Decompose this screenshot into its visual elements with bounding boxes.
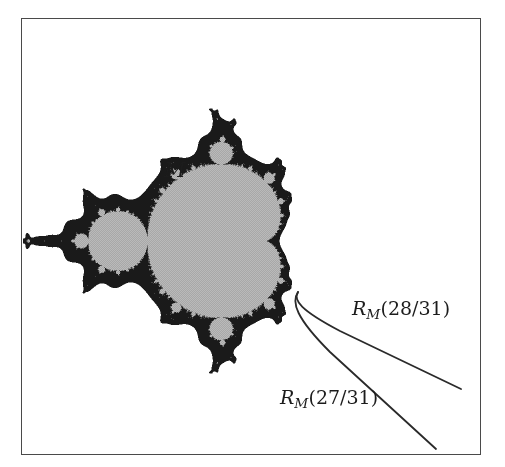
ray-label-upper: RM(28/31) [352, 299, 450, 322]
ray-lower-subscript: M [294, 395, 308, 411]
set-label-M: M [164, 160, 186, 181]
ray-lower-symbol: R [280, 386, 294, 408]
ray-upper-subscript: M [366, 306, 380, 322]
ray-upper-symbol: R [352, 297, 366, 319]
set-label-symbol: M [164, 158, 186, 182]
ray-lower-close-paren: ) [371, 386, 378, 408]
mandelbrot-figure: M RM(28/31) RM(27/31) [0, 0, 505, 467]
ray-label-lower: RM(27/31) [280, 388, 378, 411]
figure-frame [21, 18, 481, 455]
ray-upper-close-paren: ) [443, 297, 450, 319]
ray-lower-argument: 27/31 [316, 386, 371, 408]
ray-upper-open-paren: ( [381, 297, 388, 319]
ray-lower-open-paren: ( [309, 386, 316, 408]
ray-upper-argument: 28/31 [388, 297, 443, 319]
